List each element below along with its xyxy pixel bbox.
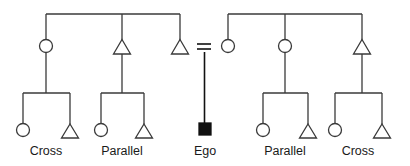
cross-left-female-circle-icon xyxy=(17,124,30,137)
g1-right-female-2-circle-icon xyxy=(279,40,292,53)
kinship-diagram-canvas: Cross Parallel Ego Parallel Cross xyxy=(0,0,410,166)
cross-left-male-triangle-icon xyxy=(62,124,79,138)
parallel-right-male-triangle-icon xyxy=(300,124,317,138)
group-parallel-left xyxy=(95,93,153,138)
label-ego: Ego xyxy=(194,144,216,158)
label-cross-left: Cross xyxy=(30,144,63,158)
ego-filled-square-icon xyxy=(199,123,211,135)
parallel-left-female-circle-icon xyxy=(95,124,108,137)
group-parallel-right xyxy=(257,93,317,138)
g1-right-female-circle-icon xyxy=(222,40,235,53)
g1-left-female-circle-icon xyxy=(40,40,53,53)
marriage-union xyxy=(197,44,211,124)
g1-right-male-triangle-icon xyxy=(354,40,371,55)
label-cross-right: Cross xyxy=(342,144,375,158)
label-parallel-right: Parallel xyxy=(264,144,306,158)
parallel-right-female-circle-icon xyxy=(257,124,270,137)
generation1-right-sibship xyxy=(222,14,371,93)
kinship-diagram: Cross Parallel Ego Parallel Cross xyxy=(0,0,410,166)
cross-right-male-triangle-icon xyxy=(374,124,391,138)
g1-left-male-triangle-icon xyxy=(114,40,131,55)
parallel-left-male-triangle-icon xyxy=(136,124,153,138)
ego-node xyxy=(199,123,211,135)
group-cross-right xyxy=(329,93,391,138)
generation1-left-sibship xyxy=(40,14,189,93)
g1-left-male-2-triangle-icon xyxy=(172,40,189,55)
label-parallel-left: Parallel xyxy=(101,144,143,158)
group-cross-left xyxy=(17,93,79,138)
cross-right-female-circle-icon xyxy=(329,124,342,137)
